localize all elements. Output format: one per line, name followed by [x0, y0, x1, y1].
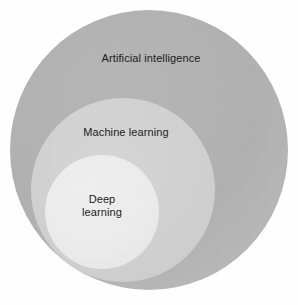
label-machine-learning: Machine learning — [0, 126, 250, 139]
label-deep-learning: Deep learning — [45, 193, 159, 219]
label-artificial-intelligence: Artificial intelligence — [0, 52, 298, 65]
nested-circles-diagram: Artificial intelligence Machine learning… — [0, 0, 298, 305]
